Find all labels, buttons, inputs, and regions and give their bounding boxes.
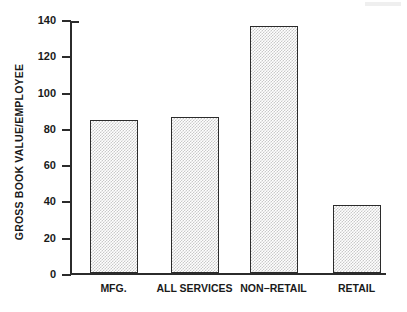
plot-area: 020406080100120140 [70,21,386,275]
y-tick-label: 0 [12,269,56,280]
bar [250,26,298,273]
scan-artifact [365,2,401,6]
y-tick-0 [62,274,71,276]
y-tick-label: 20 [12,233,56,244]
bar [171,117,219,273]
bar-chart: GROSS BOOK VALUE/EMPLOYEE 02040608010012… [0,0,407,312]
bar-series [70,21,386,273]
x-tick-label: RETAIL [317,282,396,294]
bar [333,205,381,273]
y-tick-label: 120 [12,51,56,62]
y-tick-label: 140 [12,15,56,26]
y-tick-label: 40 [12,196,56,207]
y-tick-label: 60 [12,160,56,171]
y-tick-label: 100 [12,88,56,99]
x-tick-label: NON−RETAIL [234,282,313,294]
bar [90,120,138,273]
x-tick-label: MFG. [74,282,153,294]
x-axis-tick-labels: MFG.ALL SERVICESNON−RETAILRETAIL [70,282,386,302]
x-axis-line [70,273,386,275]
y-tick-label: 80 [12,124,56,135]
x-tick-label: ALL SERVICES [155,282,234,294]
